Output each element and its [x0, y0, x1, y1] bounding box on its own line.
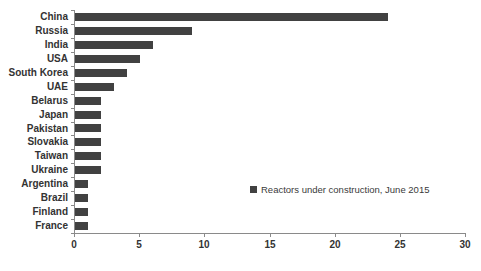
bar	[75, 152, 101, 160]
y-axis-tick	[71, 122, 74, 123]
x-tick-label: 30	[450, 239, 480, 250]
x-tick-label: 15	[255, 239, 285, 250]
category-label: Pakistan	[0, 122, 68, 136]
category-label: Brazil	[0, 191, 68, 205]
y-axis-tick	[71, 108, 74, 109]
x-axis-tick	[139, 233, 140, 237]
bar	[75, 208, 88, 216]
y-axis-tick	[71, 10, 74, 11]
bar	[75, 124, 101, 132]
x-tick-label: 10	[189, 239, 219, 250]
bar	[75, 55, 140, 63]
y-axis-tick	[71, 205, 74, 206]
x-axis-tick	[400, 233, 401, 237]
legend-label: Reactors under construction, June 2015	[261, 184, 429, 195]
bar	[75, 194, 88, 202]
bar	[75, 69, 127, 77]
x-axis-tick	[270, 233, 271, 237]
bar	[75, 166, 101, 174]
bar	[75, 13, 388, 21]
x-tick-label: 20	[320, 239, 350, 250]
bar	[75, 222, 88, 230]
x-axis-tick	[465, 233, 466, 237]
y-axis-tick	[71, 163, 74, 164]
bar	[75, 83, 114, 91]
y-axis-tick	[71, 135, 74, 136]
x-tick-label: 5	[124, 239, 154, 250]
bar	[75, 27, 192, 35]
legend-marker-icon	[250, 186, 257, 193]
x-axis-tick	[204, 233, 205, 237]
category-label: Russia	[0, 24, 68, 38]
category-label: Belarus	[0, 94, 68, 108]
y-axis-tick	[71, 94, 74, 95]
y-axis-tick	[71, 219, 74, 220]
x-tick-label: 25	[385, 239, 415, 250]
y-axis-tick	[71, 66, 74, 67]
y-axis-tick	[71, 24, 74, 25]
category-label: USA	[0, 52, 68, 66]
bar	[75, 97, 101, 105]
x-tick-label: 0	[59, 239, 89, 250]
x-axis-tick	[74, 233, 75, 237]
y-axis-tick	[71, 177, 74, 178]
y-axis-tick	[71, 80, 74, 81]
bar	[75, 138, 101, 146]
category-label: China	[0, 10, 68, 24]
category-label: UAE	[0, 80, 68, 94]
category-label: Slovakia	[0, 135, 68, 149]
category-label: Taiwan	[0, 149, 68, 163]
y-axis-tick	[71, 38, 74, 39]
category-label: Japan	[0, 108, 68, 122]
y-axis-tick	[71, 52, 74, 53]
category-label: Ukraine	[0, 163, 68, 177]
legend: Reactors under construction, June 2015	[250, 184, 429, 195]
reactors-bar-chart: ChinaRussiaIndiaUSASouth KoreaUAEBelarus…	[0, 0, 481, 271]
category-label: Argentina	[0, 177, 68, 191]
category-label: India	[0, 38, 68, 52]
category-label: Finland	[0, 205, 68, 219]
y-axis-tick	[71, 149, 74, 150]
bar	[75, 41, 153, 49]
y-axis-tick	[71, 191, 74, 192]
category-label: France	[0, 219, 68, 233]
bar	[75, 180, 88, 188]
x-axis-tick	[335, 233, 336, 237]
bar	[75, 111, 101, 119]
category-label: South Korea	[0, 66, 68, 80]
